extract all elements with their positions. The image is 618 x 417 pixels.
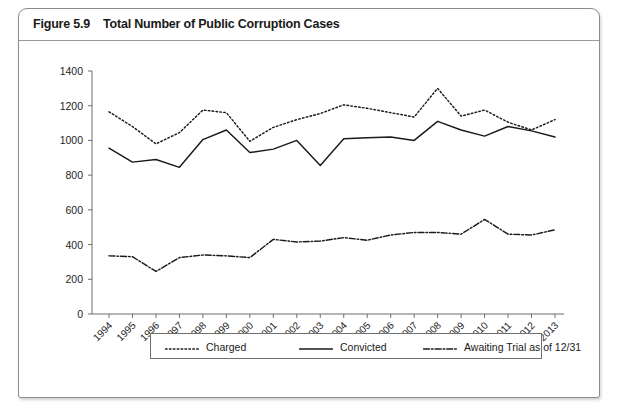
series-line-convicted xyxy=(109,121,555,167)
chart-axes xyxy=(92,71,564,314)
y-axis-tick-label: 1400 xyxy=(60,65,84,77)
legend-convicted[interactable]: Convicted xyxy=(299,334,387,360)
x-axis-tick-label: 1995 xyxy=(114,319,138,343)
legend-swatch-icon xyxy=(165,346,199,348)
y-axis-tick-label: 0 xyxy=(77,308,83,320)
legend-swatch-icon xyxy=(423,346,457,348)
chart-series-group xyxy=(109,88,555,271)
legend-awaiting[interactable]: Awaiting Trial as of 12/31 xyxy=(423,334,581,360)
series-line-charged xyxy=(109,88,555,144)
x-axis-tick-label: 1994 xyxy=(91,319,115,343)
y-axis-tick-label: 1000 xyxy=(60,134,84,146)
figure-title-bar: Figure 5.9 Total Number of Public Corrup… xyxy=(19,9,599,41)
y-axis-tick-label: 1200 xyxy=(60,100,84,112)
legend-label: Charged xyxy=(206,341,246,353)
legend-label: Awaiting Trial as of 12/31 xyxy=(464,341,581,353)
y-axis-tick-label: 200 xyxy=(65,273,83,285)
page-title: Total Number of Public Corruption Cases xyxy=(103,17,339,31)
figure-card: Figure 5.9 Total Number of Public Corrup… xyxy=(18,8,600,398)
y-axis-tick-label: 400 xyxy=(65,239,83,251)
legend-charged[interactable]: Charged xyxy=(165,334,246,360)
y-axis-tick-label: 600 xyxy=(65,204,83,216)
legend-label: Convicted xyxy=(340,341,387,353)
chart-legend: ChargedConvictedAwaiting Trial as of 12/… xyxy=(150,333,542,359)
series-line-awaiting-trial-as-of-12-31 xyxy=(109,219,555,271)
legend-swatch-icon xyxy=(299,346,333,348)
figure-number-label: Figure 5.9 xyxy=(33,17,90,31)
y-axis-tick-label: 800 xyxy=(65,169,83,181)
y-axis-ticks: 0200400600800100012001400 xyxy=(60,65,92,320)
